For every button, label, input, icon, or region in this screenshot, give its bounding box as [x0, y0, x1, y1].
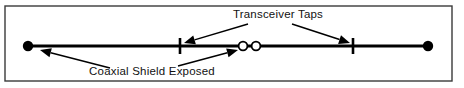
- shield-marker-1: [239, 42, 248, 51]
- label-coaxial-shield-exposed: Coaxial Shield Exposed: [89, 65, 215, 77]
- terminator-left: [23, 41, 33, 51]
- terminator-right: [423, 41, 433, 51]
- label-transceiver-taps: Transceiver Taps: [233, 8, 323, 20]
- diagram-canvas: Transceiver Taps Coaxial Shield Exposed: [0, 0, 464, 88]
- shield-marker-2: [252, 42, 261, 51]
- diagram-figure: Transceiver Taps Coaxial Shield Exposed: [0, 0, 464, 88]
